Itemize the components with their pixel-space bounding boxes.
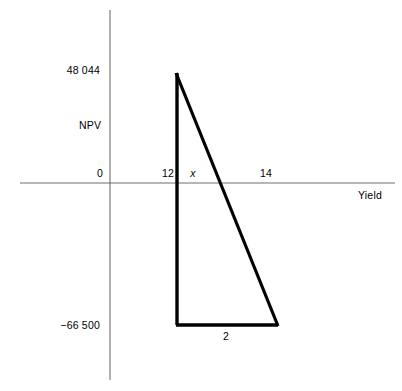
x-axis-title: Yield xyxy=(358,190,382,201)
y-value-top-label: 48 044 xyxy=(67,65,100,76)
y-axis-title: NPV xyxy=(79,120,101,131)
triangle-hypotenuse-npv-line xyxy=(176,73,278,326)
figure-canvas xyxy=(0,0,402,391)
y-value-bottom-label: −66 500 xyxy=(60,320,100,331)
x-tick-label-0: 0 xyxy=(97,168,103,179)
x-tick-label-variable-x: x xyxy=(190,168,195,179)
x-tick-label-14: 14 xyxy=(260,168,272,179)
base-width-annotation: 2 xyxy=(223,331,229,342)
x-tick-label-12: 12 xyxy=(162,168,174,179)
npv-yield-figure: 48 044 −66 500 NPV Yield 0 12 x 14 2 xyxy=(0,0,402,391)
